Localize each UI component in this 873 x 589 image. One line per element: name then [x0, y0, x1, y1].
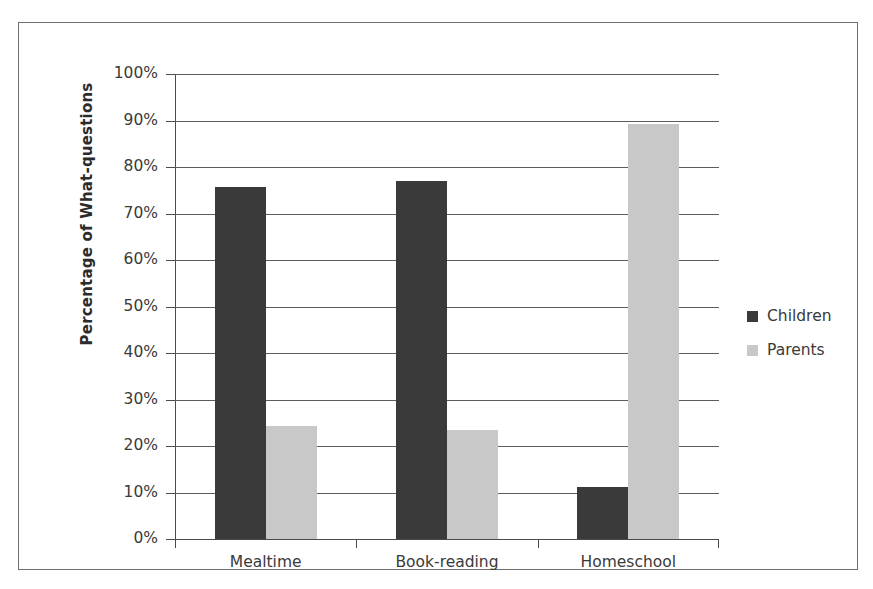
- chart-screenshot: Percentage of What-questions 0%10%20%30%…: [0, 0, 873, 589]
- y-tick-mark-80%: [166, 167, 175, 168]
- y-tick-label-50%: 50%: [98, 299, 158, 315]
- legend-item-parents[interactable]: Parents: [747, 333, 867, 367]
- y-tick-mark-60%: [166, 260, 175, 261]
- y-tick-label-80%: 80%: [98, 159, 158, 175]
- y-tick-mark-10%: [166, 493, 175, 494]
- gridline-90%: [175, 121, 719, 122]
- x-tick-label-homeschool: Homeschool: [538, 553, 719, 572]
- x-axis-tick-labels: MealtimeBook-readingHomeschool: [175, 553, 719, 579]
- x-tick-label-mealtime: Mealtime: [175, 553, 356, 572]
- gridline-100%: [175, 74, 719, 75]
- y-tick-label-20%: 20%: [98, 438, 158, 454]
- y-tick-mark-100%: [166, 74, 175, 75]
- legend-label-children: Children: [767, 307, 832, 325]
- x-tick-mark-3: [718, 539, 719, 548]
- legend-swatch-children-icon: [747, 311, 758, 322]
- legend-label-parents: Parents: [767, 341, 825, 359]
- y-tick-label-30%: 30%: [98, 392, 158, 408]
- y-tick-label-60%: 60%: [98, 252, 158, 268]
- y-tick-mark-90%: [166, 121, 175, 122]
- bar-children-homeschool: [577, 487, 628, 539]
- y-tick-mark-70%: [166, 214, 175, 215]
- y-tick-mark-50%: [166, 307, 175, 308]
- x-tick-label-book-reading: Book-reading: [356, 553, 537, 572]
- bar-parents-book-reading: [447, 430, 498, 539]
- y-tick-label-0%: 0%: [98, 531, 158, 547]
- x-axis-ticks: [175, 539, 719, 549]
- bar-parents-mealtime: [266, 426, 317, 539]
- y-tick-mark-30%: [166, 400, 175, 401]
- x-tick-mark-2: [538, 539, 539, 548]
- y-tick-label-40%: 40%: [98, 345, 158, 361]
- bar-children-mealtime: [215, 187, 266, 539]
- y-tick-label-70%: 70%: [98, 206, 158, 222]
- chart-legend: ChildrenParents: [747, 299, 867, 367]
- legend-item-children[interactable]: Children: [747, 299, 867, 333]
- y-tick-label-90%: 90%: [98, 113, 158, 129]
- x-tick-mark-1: [356, 539, 357, 548]
- y-tick-mark-40%: [166, 353, 175, 354]
- figure-frame: Percentage of What-questions 0%10%20%30%…: [18, 22, 858, 570]
- y-tick-mark-0%: [166, 539, 175, 540]
- x-tick-mark-0: [175, 539, 176, 548]
- y-tick-label-100%: 100%: [98, 66, 158, 82]
- y-axis-tick-labels: 0%10%20%30%40%50%60%70%80%90%100%: [94, 74, 158, 539]
- bar-parents-homeschool: [628, 124, 679, 539]
- legend-swatch-parents-icon: [747, 345, 758, 356]
- y-tick-label-10%: 10%: [98, 485, 158, 501]
- plot-area: [175, 74, 719, 539]
- y-tick-mark-20%: [166, 446, 175, 447]
- bar-children-book-reading: [396, 181, 447, 539]
